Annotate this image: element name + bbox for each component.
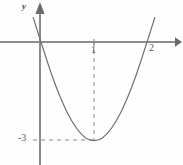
y-axis-arrowhead	[35, 2, 44, 14]
x-axis-arrowhead	[175, 37, 182, 47]
x-tick-label-1: 1	[91, 45, 96, 55]
y-tick-label-neg3: -3	[18, 133, 26, 143]
y-axis-label: y	[22, 2, 26, 11]
graph-canvas	[0, 0, 183, 165]
x-tick-label-2: 2	[149, 43, 154, 53]
parabola-figure: ) y 1 2 -3	[0, 0, 183, 165]
